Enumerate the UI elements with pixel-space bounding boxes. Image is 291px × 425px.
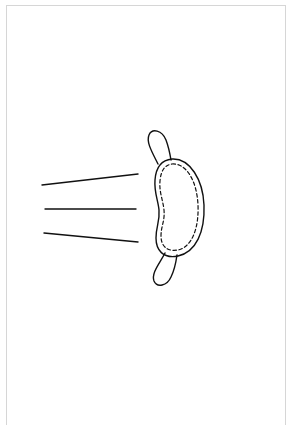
top-lobe [148, 131, 171, 164]
bottom-lobe [153, 253, 177, 285]
motion-line-1 [42, 174, 138, 185]
motion-line-3 [44, 233, 138, 242]
pad-stitching [160, 164, 198, 250]
